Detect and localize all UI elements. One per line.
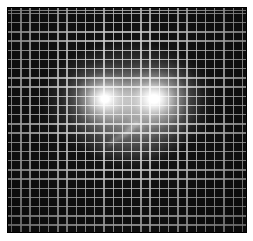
- mesh-panel: [7, 7, 247, 233]
- photo-frame: [0, 0, 253, 241]
- vignette: [8, 8, 246, 232]
